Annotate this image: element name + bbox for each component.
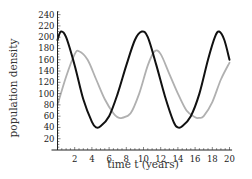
x-tick-label: 4	[89, 154, 94, 164]
y-tick-label: 80	[44, 100, 55, 110]
x-axis-title: time t (years)	[107, 158, 179, 170]
x-tick-label: 2	[72, 154, 77, 164]
series-line-gray	[58, 50, 230, 118]
y-axis: 20406080100120140160180200220240	[38, 10, 60, 150]
y-tick-label: 200	[38, 32, 54, 42]
y-tick-label: 120	[38, 77, 54, 87]
y-tick-label: 160	[38, 55, 54, 65]
y-axis-title: population density	[7, 39, 19, 138]
y-tick-label: 60	[44, 111, 55, 121]
y-tick-label: 240	[38, 10, 54, 20]
y-tick-label: 100	[38, 89, 54, 99]
y-tick-label: 180	[38, 43, 54, 53]
x-tick-label: 18	[207, 154, 218, 164]
y-tick-label: 140	[38, 66, 54, 76]
x-tick-label: 16	[190, 154, 201, 164]
y-tick-label: 220	[38, 21, 54, 31]
plot-area	[58, 31, 230, 127]
y-tick-label: 20	[44, 134, 55, 144]
y-tick-label: 40	[44, 122, 55, 132]
x-tick-label: 20	[224, 154, 235, 164]
chart: 20406080100120140160180200220240 2468101…	[0, 0, 252, 179]
